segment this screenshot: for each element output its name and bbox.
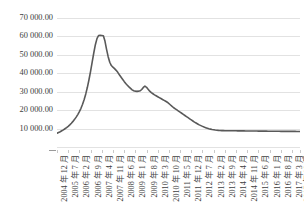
- x-axis-tick-label: 2015 年 6 月: [262, 155, 271, 198]
- x-axis-tickmark: [113, 150, 114, 153]
- x-axis-tickmark: [147, 150, 148, 153]
- x-axis-tick-label: 2010 年 10 月: [173, 155, 182, 202]
- y-axis-tick-label: 70 000.00: [20, 13, 54, 22]
- x-axis-tickmark: [202, 150, 203, 153]
- x-axis-tick-label: 2009 年 1 月: [139, 155, 148, 198]
- y-axis: 10 000.0020 000.0030 000.0040 000.0050 0…: [0, 0, 57, 160]
- x-axis-tickmark: [91, 150, 92, 153]
- x-axis-tickmark: [180, 150, 181, 153]
- x-axis-tick-label: 2013 年 9 月: [229, 155, 238, 198]
- x-axis-tick-label: 2016 年 1 月: [274, 155, 283, 198]
- x-axis-tickmark: [57, 150, 58, 153]
- axis-baseline: [57, 147, 300, 148]
- x-axis-tick-label: 2006 年 9 月: [95, 155, 104, 198]
- x-axis-tickmark: [281, 150, 282, 153]
- x-axis-tickmark: [292, 150, 293, 153]
- plot-area: [57, 18, 300, 147]
- x-axis-tickmark: [236, 150, 237, 153]
- x-axis-tick-label: 2005 年 7 月: [72, 155, 81, 198]
- x-axis-tickmark: [68, 150, 69, 153]
- x-axis-tick-label: 2006 年 2 月: [83, 155, 92, 198]
- x-axis-tickmark: [135, 150, 136, 153]
- line-chart: 10 000.0020 000.0030 000.0040 000.0050 0…: [0, 0, 304, 222]
- x-axis-tick-label: 2014 年 11 月: [251, 155, 260, 201]
- x-axis-tick-label: 2013 年 2 月: [218, 155, 227, 198]
- series-line: [57, 18, 300, 147]
- page-text-fragment: [0, 215, 304, 222]
- x-axis-tick-label: 2007 年 11 月: [117, 155, 126, 201]
- x-axis-tick-label: 2011 年 5 月: [184, 155, 193, 197]
- x-axis-tickmark: [158, 150, 159, 153]
- x-axis-tick-label: 2011 年 12 月: [195, 155, 204, 201]
- x-axis-tickmark: [169, 150, 170, 153]
- x-axis-tick-label: 2012 年 7 月: [206, 155, 215, 198]
- x-axis-tickmark: [214, 150, 215, 153]
- x-axis-tick-label: 2009 年 8 月: [151, 155, 160, 198]
- x-axis-tick-label: 2010 年 3 月: [162, 155, 171, 198]
- x-axis-tickmark: [225, 150, 226, 153]
- y-axis-tick-label: 40 000.00: [20, 68, 54, 77]
- y-axis-tick-label: 30 000.00: [20, 87, 54, 96]
- x-axis-tick-label: 2014 年 4 月: [240, 155, 249, 198]
- x-axis-tickmark: [247, 150, 248, 153]
- y-axis-tick-label: 10 000.00: [20, 124, 54, 133]
- series-polyline: [57, 35, 300, 133]
- x-axis-tickmark: [258, 150, 259, 153]
- x-axis-tick-label: 2008 年 6 月: [128, 155, 137, 198]
- y-axis-tick-label: 50 000.00: [20, 50, 54, 59]
- x-axis-tickmark: [79, 150, 80, 153]
- x-axis-tick-label: 2007 年 4 月: [106, 155, 115, 198]
- x-axis: 2004 年 12 月2005 年 7 月2006 年 2 月2006 年 9 …: [57, 150, 300, 222]
- x-axis-tickmark: [124, 150, 125, 153]
- axis-stub: [49, 150, 56, 151]
- x-axis-tickmark: [102, 150, 103, 153]
- x-axis-tickmark: [300, 150, 301, 153]
- x-axis-tickmark: [270, 150, 271, 153]
- x-axis-tick-label: 2016 年 8 月: [285, 155, 294, 198]
- y-axis-tick-label: 60 000.00: [20, 31, 54, 40]
- x-axis-tickmark: [191, 150, 192, 153]
- y-axis-tick-label: 20 000.00: [20, 105, 54, 114]
- x-axis-tick-label: 2004 年 12 月: [61, 155, 70, 202]
